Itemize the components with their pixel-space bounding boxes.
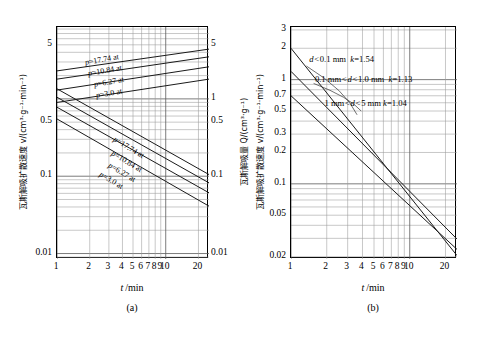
axis-tick-label: 0.1 <box>211 170 235 180</box>
figure-root: 50.50.10.01510.50.10.011234567891020 p=1… <box>0 0 484 350</box>
x-axis-label-b: t /min <box>290 282 456 293</box>
panel-a: 50.50.10.01510.50.10.011234567891020 p=1… <box>0 0 242 350</box>
caption-a: (a) <box>56 302 208 313</box>
axis-tick-label: 20 <box>189 262 205 272</box>
axis-tick-label: 2 <box>81 262 97 272</box>
axis-tick-label: 10 <box>401 262 417 272</box>
annotation-d-0_1-to-1mm: 0.1 mm < d < 1.0 mm k=1.13 <box>315 74 412 84</box>
axis-tick-label: 5 <box>211 39 235 49</box>
axis-tick-label: 1 <box>282 262 298 272</box>
axis-tick-label: 1 <box>48 262 64 272</box>
axis-tick-label: 2 <box>318 262 334 272</box>
axis-tick-label: 0.01 <box>211 248 235 258</box>
axis-tick-label: 1 <box>211 93 235 103</box>
x-axis-label-a: t /min <box>56 282 208 293</box>
annotation-d-1-to-5mm: 1 mm < d < 5 mm k=1.04 <box>324 98 406 108</box>
plot-area-a <box>56 26 208 258</box>
axis-tick-label: 20 <box>436 262 452 272</box>
panel-b: 3210.70.50.30.20.10.050.021234567891020 … <box>242 0 484 350</box>
y-axis-label-left-a: 瓦斯解吸扩散速度 v/(cm³·g⁻¹·min⁻¹) <box>17 26 28 258</box>
axis-tick-label: 0.5 <box>211 116 235 126</box>
caption-b: (b) <box>290 302 456 313</box>
y-axis-label-left-b: 瓦斯解吸扩散速度 v/(cm³·g⁻¹·min⁻¹) <box>254 26 265 258</box>
axis-tick-label: 10 <box>157 262 173 272</box>
axis-tick-label: 3 <box>339 262 355 272</box>
plot-svg-a <box>57 27 209 259</box>
annotation-d-lt-0_1mm: d < 0.1 mm k=1.54 <box>309 54 374 64</box>
